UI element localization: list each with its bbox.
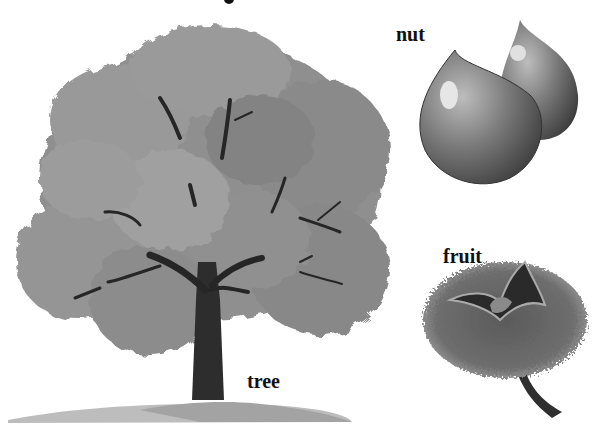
illustration-canvas: nut fruit tree <box>0 0 600 430</box>
nut-illustration <box>420 20 578 184</box>
label-fruit: fruit <box>443 246 482 266</box>
label-tree: tree <box>247 371 280 391</box>
label-nut: nut <box>396 24 425 44</box>
ground-mound <box>8 402 352 423</box>
illustration-svg <box>0 0 600 430</box>
fruit-illustration <box>423 262 587 418</box>
